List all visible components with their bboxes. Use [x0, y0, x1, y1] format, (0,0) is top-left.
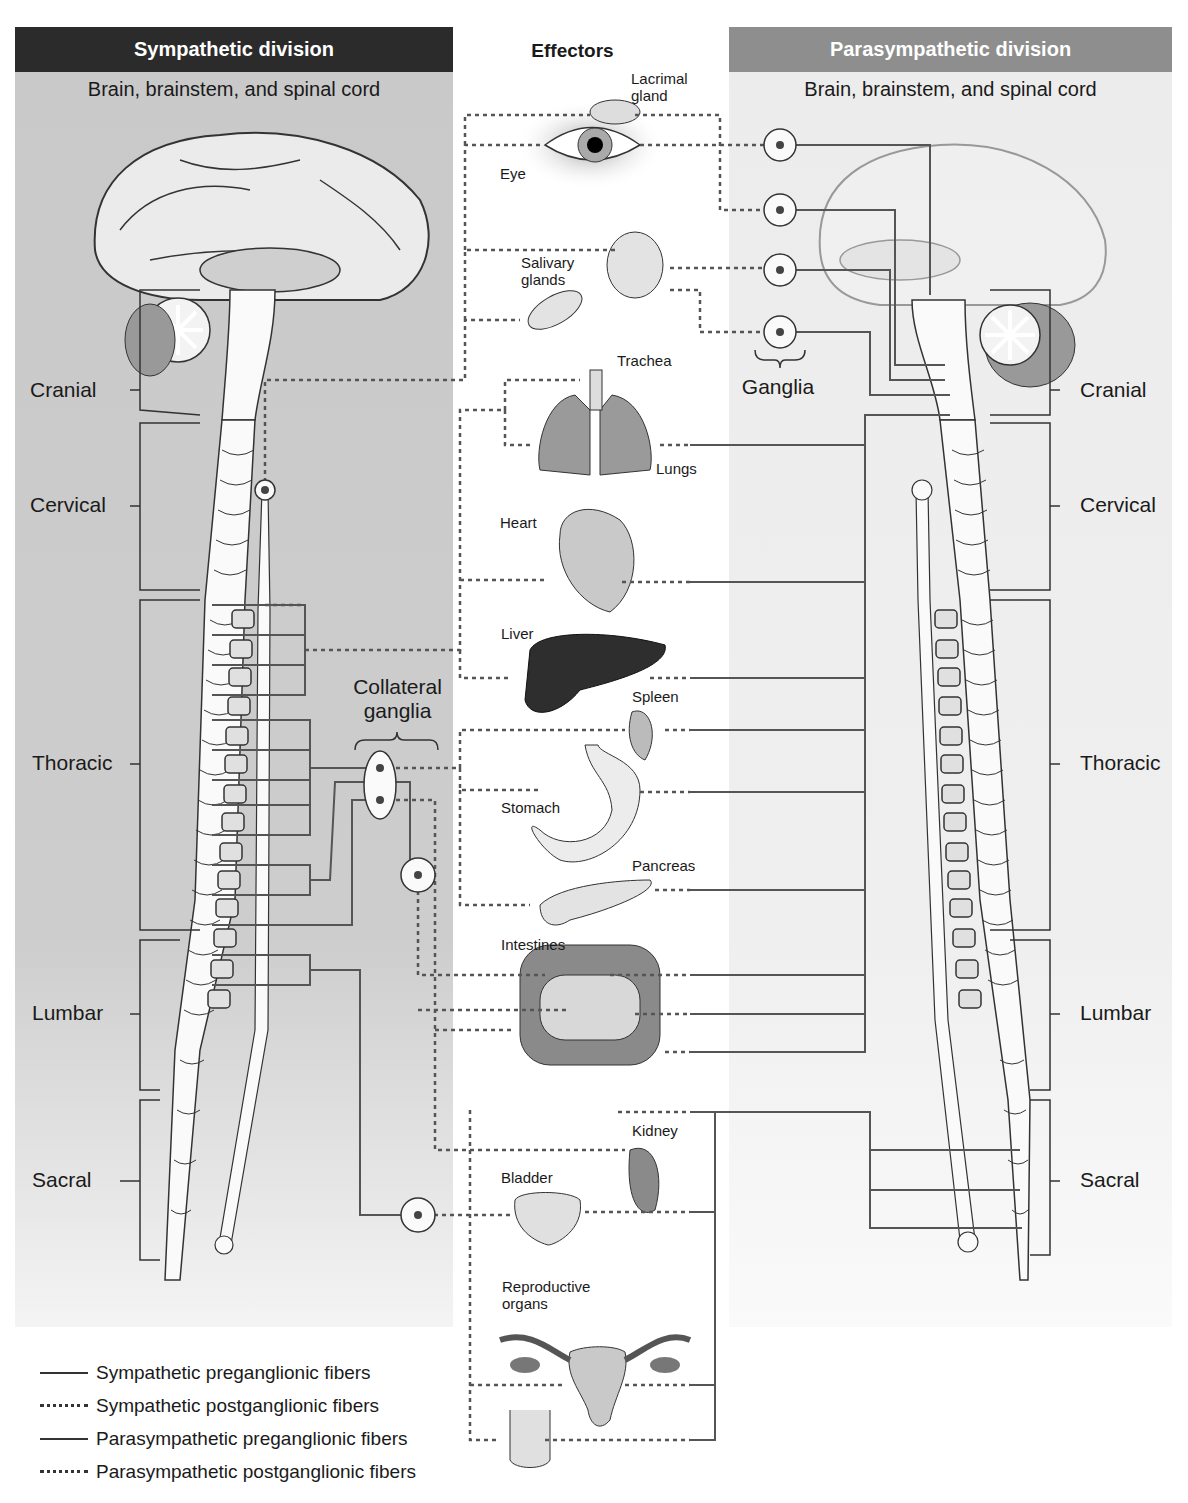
intestines-label: Intestines	[501, 936, 565, 953]
bladder-label: Bladder	[501, 1169, 553, 1186]
lacrimal-gland-label: Lacrimal gland	[631, 70, 688, 104]
sym-sacral-label: Sacral	[32, 1168, 92, 1192]
solid-line-icon	[40, 1438, 88, 1440]
left-spinal-cord	[165, 420, 270, 1280]
para-cranial-label: Cranial	[1080, 378, 1147, 402]
stomach-label: Stomach	[501, 799, 560, 816]
dotted-line-icon	[40, 1404, 88, 1407]
legend-item: Sympathetic preganglionic fibers	[40, 1356, 416, 1389]
collateral-ganglia-label: Collateral ganglia	[345, 675, 450, 723]
trachea-label: Trachea	[617, 352, 671, 369]
legend-item: Parasympathetic postganglionic fibers	[40, 1455, 416, 1488]
para-thoracic-label: Thoracic	[1080, 751, 1161, 775]
right-brain-illustration	[820, 145, 1106, 305]
sym-cervical-label: Cervical	[30, 493, 106, 517]
solid-line-icon	[40, 1372, 88, 1374]
legend: Sympathetic preganglionic fibers Sympath…	[40, 1356, 416, 1488]
sym-lumbar-label: Lumbar	[32, 1001, 103, 1025]
legend-item: Sympathetic postganglionic fibers	[40, 1389, 416, 1422]
legend-item: Parasympathetic preganglionic fibers	[40, 1422, 416, 1455]
pancreas-label: Pancreas	[632, 857, 695, 874]
sym-thoracic-label: Thoracic	[32, 751, 113, 775]
para-lumbar-label: Lumbar	[1080, 1001, 1151, 1025]
para-sacral-label: Sacral	[1080, 1168, 1140, 1192]
organ-illustrations	[500, 100, 690, 1468]
reproductive-organs-label: Reproductive organs	[502, 1278, 590, 1312]
parasympathetic-postganglionic-fibers	[545, 115, 780, 1440]
lungs-label: Lungs	[656, 460, 697, 477]
sym-cranial-label: Cranial	[30, 378, 97, 402]
salivary-glands-label: Salivary glands	[521, 254, 574, 288]
kidney-label: Kidney	[632, 1122, 678, 1139]
heart-label: Heart	[500, 514, 537, 531]
eye-label: Eye	[500, 165, 526, 182]
left-brain-illustration	[95, 133, 429, 420]
dotted-line-icon	[40, 1470, 88, 1473]
ganglion-dots	[261, 141, 784, 1219]
parasympathetic-ganglia-label: Ganglia	[730, 375, 826, 399]
para-cervical-label: Cervical	[1080, 493, 1156, 517]
liver-label: Liver	[501, 625, 534, 642]
autonomic-diagram	[0, 0, 1188, 1503]
spleen-label: Spleen	[632, 688, 679, 705]
